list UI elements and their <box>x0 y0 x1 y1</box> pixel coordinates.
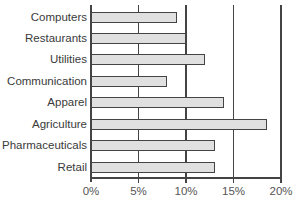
category-label: Computers <box>31 11 87 23</box>
x-tick-label: 10% <box>174 185 197 197</box>
gridline <box>233 5 235 183</box>
bar-apparel <box>91 97 224 108</box>
x-tick-label: 0% <box>83 185 100 197</box>
gridline <box>138 5 140 183</box>
category-label: Utilities <box>50 53 87 65</box>
category-label: Retail <box>58 161 87 173</box>
category-label: Restaurants <box>25 32 87 44</box>
gridline <box>185 5 187 183</box>
bar-pharmaceuticals <box>91 140 215 151</box>
bar-communication <box>91 76 167 87</box>
category-label: Pharmaceuticals <box>2 139 87 151</box>
category-label: Communication <box>7 75 87 87</box>
category-label: Agriculture <box>32 118 87 130</box>
x-tick-label: 20% <box>269 185 292 197</box>
x-tick-label: 5% <box>130 185 147 197</box>
bar-restaurants <box>91 33 186 44</box>
bar-utilities <box>91 54 205 65</box>
x-tick-label: 15% <box>222 185 245 197</box>
bar-retail <box>91 162 215 173</box>
bar-computers <box>91 12 177 23</box>
y-axis-line <box>90 5 92 178</box>
bar-agriculture <box>91 119 267 130</box>
horizontal-bar-chart: ComputersRestaurantsUtilitiesCommunicati… <box>0 0 301 202</box>
tick-mark <box>90 177 92 182</box>
category-label: Apparel <box>47 96 87 108</box>
gridline <box>280 5 282 183</box>
